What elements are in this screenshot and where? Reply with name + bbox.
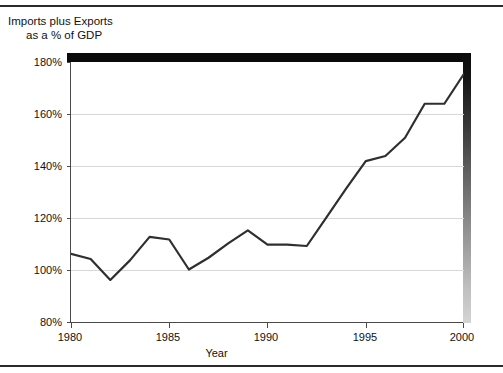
bottom-divider-rule [0,365,503,367]
x-tick-2000 [463,323,464,328]
y-axis-label-120: 120% [6,213,62,224]
x-axis-label-1985: 1985 [138,331,198,343]
chart-title: Imports plus Exports as a % of GDP [8,14,113,42]
y-axis-label-100: 100% [6,265,62,276]
chart-title-line-2: as a % of GDP [8,28,113,42]
scan-shadow-top [67,53,471,62]
x-tick-1990 [267,323,268,328]
x-axis-label-2000: 2000 [432,331,492,343]
chart-title-line-1: Imports plus Exports [8,14,113,28]
x-tick-1980 [71,323,72,328]
x-axis-label-1980: 1980 [40,331,100,343]
x-tick-1995 [366,323,367,328]
top-divider-rule [0,5,503,7]
scan-shadow-right [463,53,471,323]
x-tick-1985 [169,323,170,328]
figure-container: Imports plus Exports as a % of GDP 180% … [0,0,503,373]
data-series-line [71,62,464,323]
y-axis-label-180: 180% [6,57,62,68]
plot-area [70,62,463,323]
x-axis-label-1990: 1990 [236,331,296,343]
x-axis-title-text: Year [205,347,227,359]
x-axis-label-1995: 1995 [335,331,395,343]
y-axis-label-160: 160% [6,109,62,120]
y-axis-label-80: 80% [6,317,62,328]
y-axis-label-140: 140% [6,161,62,172]
plot-wrapper [70,62,463,323]
x-axis-title: Year [0,347,503,359]
